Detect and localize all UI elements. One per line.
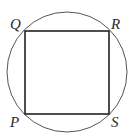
vertex-label-s: S	[111, 114, 119, 130]
diagram-canvas: Q R P S	[0, 0, 137, 138]
vertex-label-r: R	[110, 16, 120, 32]
inscribed-square-diagram: Q R P S	[0, 0, 137, 138]
vertex-label-q: Q	[10, 16, 21, 32]
square-pqrs	[25, 31, 109, 114]
vertex-label-p: P	[9, 114, 19, 130]
